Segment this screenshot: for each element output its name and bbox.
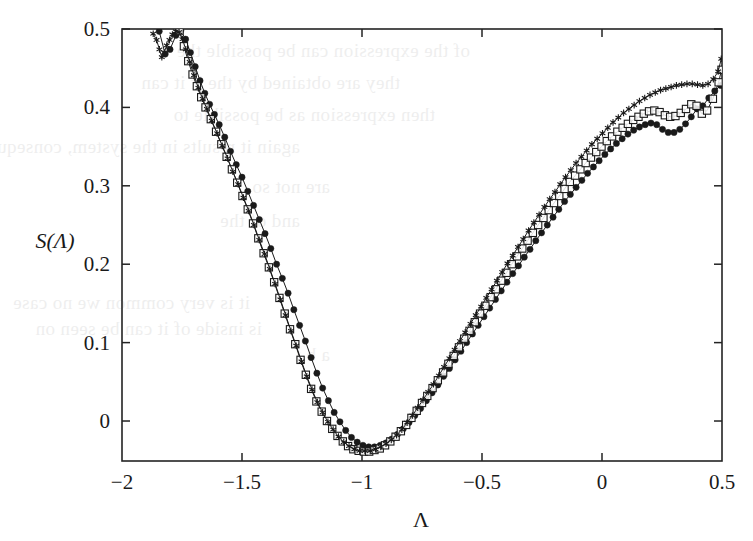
marker-star [154, 37, 160, 44]
marker-circle [538, 230, 544, 236]
marker-star [642, 95, 648, 102]
x-axis-label: Λ [413, 507, 429, 532]
marker-star [631, 102, 637, 109]
marker-circle [550, 214, 556, 220]
marker-circle [642, 122, 648, 128]
marker-circle [167, 46, 173, 52]
marker-circle [285, 290, 291, 296]
marker-circle [354, 439, 360, 445]
x-tick-label: −1.5 [223, 470, 261, 494]
marker-circle [596, 158, 602, 164]
marker-circle [156, 28, 162, 34]
marker-circle [671, 129, 677, 135]
marker-star [652, 89, 658, 96]
marker-circle [602, 151, 608, 157]
marker-circle [337, 419, 343, 425]
marker-circle [677, 126, 683, 132]
y-axis-label: S(Λ) [36, 228, 75, 253]
y-tick-label: 0.3 [84, 174, 110, 198]
marker-circle [308, 354, 314, 360]
marker-circle [273, 261, 279, 267]
marker-circle [590, 164, 596, 170]
marker-circle [302, 338, 308, 344]
marker-circle [579, 177, 585, 183]
marker-circle [521, 254, 527, 260]
marker-square [529, 229, 536, 236]
marker-circle [320, 385, 326, 391]
marker-circle [636, 124, 642, 130]
y-tick-label: 0.1 [84, 331, 110, 355]
marker-circle [296, 322, 302, 328]
marker-circle [584, 170, 590, 176]
marker-star [647, 92, 653, 99]
marker-circle [665, 129, 671, 135]
marker-square [535, 221, 542, 228]
x-tick-label: −2 [111, 470, 133, 494]
marker-circle [527, 246, 533, 252]
marker-square [561, 185, 568, 192]
marker-circle [654, 122, 660, 128]
marker-circle [613, 140, 619, 146]
plot-box-border [122, 29, 722, 461]
marker-star [626, 106, 632, 113]
plot-frame [122, 29, 722, 461]
marker-star [718, 55, 724, 62]
y-tick-label: 0.5 [84, 17, 110, 41]
marker-circle [619, 136, 625, 142]
marker-circle [515, 263, 521, 269]
marker-star [157, 46, 163, 53]
marker-circle [268, 245, 274, 251]
marker-square [693, 102, 700, 109]
series-star [150, 28, 724, 454]
marker-circle [348, 434, 354, 440]
marker-square [709, 95, 716, 102]
y-tick-label: 0.4 [84, 95, 111, 119]
x-tick-label: −0.5 [463, 470, 501, 494]
marker-circle [343, 427, 349, 433]
x-tick-label: 0 [597, 470, 608, 494]
marker-star [637, 98, 643, 105]
figure-container: of the expression can be possible thethe… [0, 0, 753, 541]
marker-star [167, 37, 173, 44]
marker-circle [533, 238, 539, 244]
marker-star [658, 87, 664, 94]
marker-circle [659, 126, 665, 132]
x-axis-ticks [242, 29, 602, 461]
marker-star [663, 85, 669, 92]
marker-circle [279, 275, 285, 281]
y-axis-ticks [122, 29, 722, 421]
x-tick-label: 0.5 [709, 470, 735, 494]
marker-circle [682, 121, 688, 127]
marker-circle [314, 370, 320, 376]
marker-circle [222, 134, 228, 140]
marker-star [668, 84, 674, 91]
marker-star [150, 30, 156, 37]
marker-circle [688, 114, 694, 120]
marker-circle [216, 122, 222, 128]
data-series-layer [150, 27, 725, 455]
marker-circle [262, 231, 268, 237]
marker-circle [325, 398, 331, 404]
chart-canvas: −2−1.5−1−0.500.500.10.20.30.40.5 Λ S(Λ) [0, 0, 753, 541]
y-tick-label: 0 [100, 409, 111, 433]
marker-circle [331, 409, 337, 415]
marker-circle [291, 307, 297, 313]
marker-circle [544, 222, 550, 228]
marker-circle [192, 63, 198, 69]
series-filled-circle [156, 27, 724, 450]
x-tick-label: −1 [351, 470, 373, 494]
marker-circle [608, 146, 614, 152]
marker-square [715, 79, 722, 86]
y-tick-label: 0.2 [84, 252, 110, 276]
marker-square [703, 107, 710, 114]
marker-circle [648, 120, 654, 126]
